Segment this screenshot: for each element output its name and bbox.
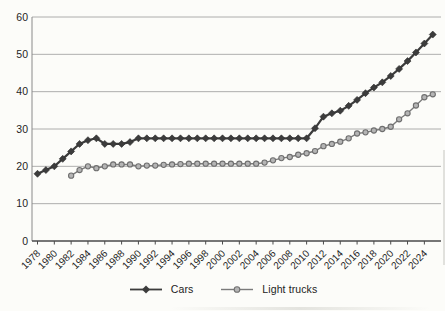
cars-marker	[118, 140, 125, 147]
cars-marker	[194, 135, 201, 142]
legend-item-light-trucks: Light trucks	[219, 283, 317, 295]
light-trucks-marker	[397, 117, 402, 122]
light-trucks-marker	[245, 161, 250, 166]
light-trucks-marker	[94, 166, 99, 171]
cars-marker	[269, 135, 276, 142]
light-trucks-marker	[329, 141, 334, 146]
light-trucks-marker	[287, 154, 292, 159]
light-trucks-marker	[346, 136, 351, 141]
light-trucks-marker	[153, 163, 158, 168]
light-trucks-marker	[270, 158, 275, 163]
y-axis-tick-label: 50	[16, 48, 28, 60]
y-axis-tick-label: 60	[16, 11, 28, 23]
legend-label-cars: Cars	[171, 283, 194, 295]
light-trucks-marker	[237, 161, 242, 166]
legend-label-light-trucks: Light trucks	[262, 283, 317, 295]
light-trucks-marker	[102, 164, 107, 169]
light-trucks-marker	[203, 161, 208, 166]
cars-marker	[152, 135, 159, 142]
cars-series-marker-icon	[128, 284, 164, 295]
light-trucks-marker	[388, 124, 393, 129]
cars-marker	[185, 135, 192, 142]
cars-marker	[169, 135, 176, 142]
cars-marker	[244, 135, 251, 142]
light-trucks-marker	[405, 111, 410, 116]
cars-marker	[278, 135, 285, 142]
light-trucks-marker	[212, 161, 217, 166]
light-trucks-marker	[127, 162, 132, 167]
cars-marker	[34, 170, 41, 177]
light-trucks-marker	[69, 173, 74, 178]
cars-marker	[328, 110, 335, 117]
cars-marker	[295, 135, 302, 142]
cars-marker	[227, 135, 234, 142]
light-trucks-marker	[119, 162, 124, 167]
light-trucks-marker	[161, 162, 166, 167]
y-axis-tick-label: 20	[16, 160, 28, 172]
cars-marker	[202, 135, 209, 142]
cars-marker	[253, 135, 260, 142]
light-trucks-marker	[312, 148, 317, 153]
light-trucks-marker	[186, 161, 191, 166]
light-trucks-marker	[363, 130, 368, 135]
light-trucks-marker	[380, 126, 385, 131]
cars-marker	[261, 135, 268, 142]
light-trucks-marker	[304, 151, 309, 156]
legend: Cars Light trucks	[0, 283, 445, 295]
y-axis-tick-label: 40	[16, 85, 28, 97]
light-trucks-marker	[413, 103, 418, 108]
light-trucks-marker	[321, 144, 326, 149]
cars-marker	[127, 139, 134, 146]
light-trucks-marker	[136, 164, 141, 169]
light-trucks-marker	[228, 161, 233, 166]
light-trucks-marker	[169, 162, 174, 167]
light-trucks-marker	[220, 161, 225, 166]
light-trucks-marker	[279, 156, 284, 161]
light-trucks-marker	[430, 92, 435, 97]
cars-marker	[219, 135, 226, 142]
cars-marker	[160, 135, 167, 142]
light-trucks-marker	[296, 152, 301, 157]
light-trucks-marker	[77, 167, 82, 172]
scan-artifact-bottom	[170, 307, 430, 310]
cars-marker	[177, 135, 184, 142]
y-axis-tick-label: 0	[22, 235, 28, 247]
light-trucks-marker	[371, 128, 376, 133]
cars-marker	[84, 137, 91, 144]
cafe-standards-chart: 0102030405060197819801982198419861988199…	[0, 0, 445, 311]
cars-marker	[236, 135, 243, 142]
light-trucks-marker	[195, 161, 200, 166]
cars-marker	[143, 135, 150, 142]
light-trucks-marker	[254, 161, 259, 166]
cars-marker	[135, 135, 142, 142]
light-trucks-line	[71, 94, 433, 175]
light-trucks-marker	[111, 162, 116, 167]
y-axis-tick-label: 30	[16, 123, 28, 135]
x-axis-tick-label: 2024	[406, 247, 430, 271]
cars-line	[38, 35, 433, 174]
light-trucks-marker	[354, 131, 359, 136]
light-trucks-marker	[144, 163, 149, 168]
light-trucks-marker	[338, 139, 343, 144]
light-trucks-marker	[178, 161, 183, 166]
cars-marker	[42, 167, 49, 174]
y-axis-tick-label: 10	[16, 197, 28, 209]
legend-item-cars: Cars	[128, 283, 194, 295]
cars-marker	[211, 135, 218, 142]
light-trucks-marker	[85, 164, 90, 169]
chart-plot-area: 0102030405060197819801982198419861988199…	[0, 0, 445, 311]
cars-marker	[286, 135, 293, 142]
cars-marker	[110, 140, 117, 147]
light-trucks-marker	[262, 160, 267, 165]
light-trucks-marker	[422, 95, 427, 100]
light-trucks-series-marker-icon	[219, 284, 255, 295]
